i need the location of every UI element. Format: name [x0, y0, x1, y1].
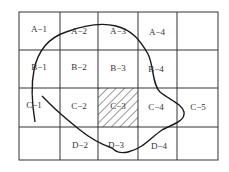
cell-label-b1: B−1 — [31, 62, 47, 72]
cell-label-d4: D−4 — [151, 141, 168, 151]
cell-label-a4: A−4 — [149, 27, 166, 37]
cell-label-d2: D−2 — [72, 140, 88, 150]
cell-label-b4: B−4 — [148, 64, 164, 74]
cell-label-c5: C−5 — [190, 102, 206, 112]
cell-label-b2: B−2 — [71, 62, 87, 72]
cell-label-d3: D−3 — [108, 140, 125, 150]
cell-label-b3: B−3 — [110, 63, 126, 73]
cell-label-c1: C−1 — [26, 100, 42, 110]
cell-label-c2: C−2 — [71, 101, 87, 111]
cell-label-a2: A−2 — [71, 26, 87, 36]
cell-label-a1: A−1 — [31, 24, 47, 34]
cell-label-c3: C−3 — [110, 101, 126, 111]
cell-label-a3: A−3 — [110, 26, 127, 36]
grid-boundary-diagram: A−1 A−2 A−3 A−4 B−1 B−2 B−3 B−4 C−1 C−2 … — [0, 0, 229, 172]
cell-label-c4: C−4 — [148, 102, 164, 112]
